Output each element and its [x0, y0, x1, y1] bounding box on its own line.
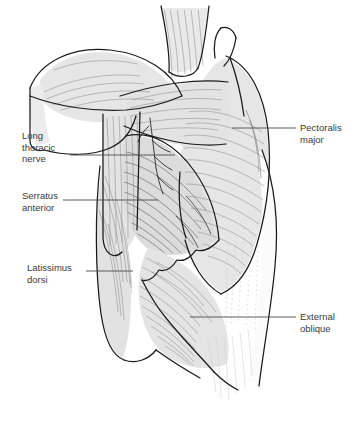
label-external-oblique: External oblique — [300, 311, 335, 334]
anatomical-illustration: Long thoracic nerveSerratus anteriorLati… — [0, 0, 360, 426]
label-pectoralis-major: Pectoralis major — [300, 122, 342, 145]
anatomy-diagram — [0, 0, 360, 426]
label-long-thoracic-nerve: Long thoracic nerve — [22, 130, 55, 165]
label-latissimus-dorsi: Latissimus dorsi — [27, 262, 72, 285]
label-serratus-anterior: Serratus anterior — [22, 190, 58, 213]
